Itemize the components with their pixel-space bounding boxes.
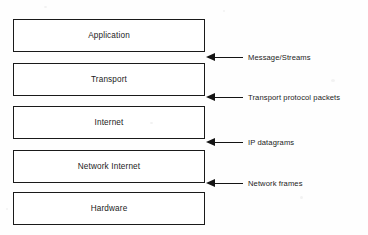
layer-label: Network Internet — [78, 162, 140, 171]
layer-box-transport: Transport — [13, 63, 205, 96]
arrow-left-icon — [205, 178, 243, 189]
annotation-label: Transport protocol packets — [248, 93, 340, 102]
protocol-layer-diagram: Application Transport Internet Network I… — [0, 0, 368, 235]
scan-speckle — [44, 6, 47, 8]
annotation-label: IP datagrams — [248, 138, 294, 147]
scan-speckle — [331, 79, 335, 82]
annotation-ip-datagrams: IP datagrams — [205, 136, 294, 148]
layer-label: Application — [88, 31, 130, 40]
layer-box-internet: Internet — [13, 106, 205, 139]
layer-box-network-internet: Network Internet — [13, 150, 205, 183]
annotation-label: Message/Streams — [248, 53, 311, 62]
annotation-transport-protocol-packets: Transport protocol packets — [205, 91, 340, 103]
arrow-left-icon — [205, 137, 243, 148]
arrow-left-icon — [205, 52, 243, 63]
layer-label: Internet — [95, 118, 124, 127]
scan-speckle — [6, 208, 8, 210]
annotation-label: Network frames — [248, 179, 303, 188]
scan-speckle — [300, 196, 303, 199]
annotation-network-frames: Network frames — [205, 177, 303, 189]
layer-label: Transport — [91, 75, 127, 84]
layer-box-application: Application — [13, 19, 205, 52]
layer-label: Hardware — [91, 204, 128, 213]
scan-speckle — [223, 10, 225, 12]
annotation-message-streams: Message/Streams — [205, 51, 311, 63]
layer-box-hardware: Hardware — [13, 192, 205, 225]
arrow-left-icon — [205, 92, 243, 103]
